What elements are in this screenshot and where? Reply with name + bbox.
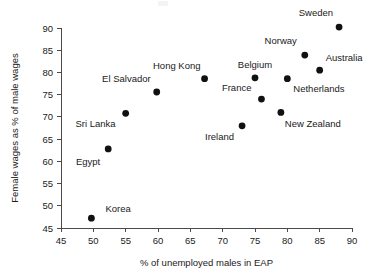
y-tick-label: 70 (42, 111, 53, 122)
scatter-chart: 4550556065707580859045505560657075808590… (0, 0, 379, 279)
y-tick-label: 60 (42, 156, 53, 167)
data-point-label: Korea (105, 203, 131, 214)
data-point-label: Netherlands (293, 83, 344, 94)
y-tick-label: 85 (42, 45, 53, 56)
data-point (105, 145, 112, 152)
y-tick-label: 50 (42, 200, 53, 211)
x-tick-label: 90 (347, 235, 358, 246)
x-axis-title: % of unemployed males in EAP (140, 257, 273, 268)
data-point-label: El Salvador (102, 73, 151, 84)
x-tick-label: 45 (56, 235, 67, 246)
data-point-label: Australia (326, 52, 364, 63)
data-point-label: Sri Lanka (76, 118, 117, 129)
x-tick-label: 60 (153, 235, 164, 246)
data-point-label: New Zealand (285, 118, 341, 129)
x-tick-label: 65 (185, 235, 196, 246)
x-tick-label: 85 (314, 235, 325, 246)
data-point (122, 110, 129, 117)
data-point (316, 67, 323, 74)
y-axis-title: Female wages as % of male wages (9, 53, 20, 203)
y-tick-label: 90 (42, 23, 53, 34)
data-point (88, 215, 95, 222)
x-tick-label: 55 (120, 235, 131, 246)
data-point (301, 52, 308, 59)
data-point (336, 24, 343, 31)
y-tick-label: 45 (42, 223, 53, 234)
data-point (252, 74, 259, 81)
data-point-label: Belgium (238, 59, 272, 70)
data-point-label: Ireland (205, 131, 234, 142)
data-point (239, 122, 246, 129)
data-point-label: Norway (265, 35, 297, 46)
x-tick-label: 50 (88, 235, 99, 246)
plot-area: 4550556065707580859045505560657075808590… (0, 0, 379, 279)
data-point (284, 75, 291, 82)
y-tick-label: 80 (42, 67, 53, 78)
x-tick-label: 80 (282, 235, 293, 246)
x-tick-label: 70 (217, 235, 228, 246)
data-point-label: Egypt (76, 156, 101, 167)
data-point-label: Hong Kong (153, 60, 201, 71)
data-point (258, 96, 265, 103)
y-tick-label: 55 (42, 178, 53, 189)
y-tick-label: 65 (42, 134, 53, 145)
data-point-label: France (222, 82, 252, 93)
x-tick-label: 75 (250, 235, 261, 246)
data-point (153, 89, 160, 96)
y-tick-label: 75 (42, 89, 53, 100)
data-point (201, 75, 208, 82)
data-point (277, 109, 284, 116)
data-point-label: Sweden (299, 7, 333, 18)
